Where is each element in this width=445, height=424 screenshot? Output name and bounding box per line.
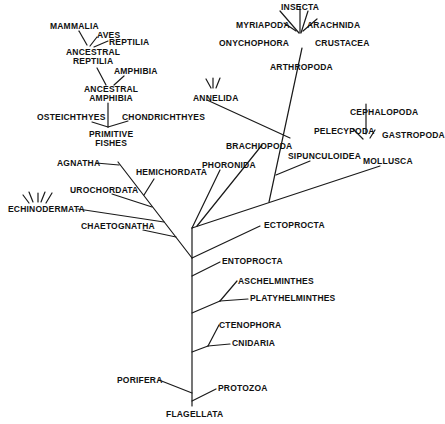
branch-phoronida [192, 170, 220, 228]
branch-worms [192, 301, 220, 313]
label-brachiopoda: BRACHIOPODA [226, 142, 292, 151]
label-arthropoda: ARTHROPODA [270, 63, 333, 72]
label-pelecypoda: PELECYPODA [314, 127, 375, 136]
label-porifera: PORIFERA [117, 376, 163, 385]
label-hemichordata: HEMICHORDATA [136, 168, 207, 177]
label-platyhelminthes: PLATYHELMINTHES [250, 294, 335, 303]
label-flagellata: FLAGELLATA [166, 410, 223, 419]
branch-annelida [207, 100, 290, 138]
branch-amphibia-stem [97, 68, 106, 85]
label-entoprocta: ENTOPROCTA [222, 257, 283, 266]
label-cnidaria: CNIDARIA [232, 339, 275, 348]
branch-brachiopoda [197, 145, 262, 226]
branch-entoprocta [192, 262, 220, 276]
label-cephalopoda: CEPHALOPODA [350, 108, 418, 117]
label-sipunculoidea: SIPUNCULOIDEA [288, 152, 361, 161]
label-chaetognatha: CHAETOGNATHA [81, 222, 155, 231]
label-echinodermata: ECHINODERMATA [8, 205, 85, 214]
label-aschelminthes: ASCHELMINTHES [238, 277, 314, 286]
branch-platyhelminthes [220, 299, 248, 301]
label-insecta: INSECTA [281, 3, 319, 12]
label-ancestral-reptilia: ANCESTRAL REPTILIA [66, 48, 120, 66]
branch-mammalia [79, 31, 87, 45]
branch-osteichthyes [92, 122, 108, 127]
label-urochordata: UROCHORDATA [70, 186, 138, 195]
label-agnatha: AGNATHA [57, 159, 100, 168]
branch-hemichordata [144, 179, 154, 195]
label-chondrichthyes: CHONDRICHTHYES [122, 113, 205, 122]
label-protozoa: PROTOZOA [218, 384, 268, 393]
label-myriapoda: MYRIAPODA [236, 21, 290, 30]
branch-sipunculoidea [276, 161, 310, 175]
branch-radiata [192, 346, 208, 352]
label-gastropoda: GASTROPODA [382, 131, 445, 140]
label-crustacea: CRUSTACEA [315, 39, 370, 48]
label-ectoprocta: ECTOPROCTA [264, 221, 325, 230]
label-mammalia: MAMMALIA [50, 22, 99, 31]
label-osteichthyes: OSTEICHTHYES [37, 113, 106, 122]
label-ctenophora: CTENOPHORA [219, 321, 281, 330]
branch-aves [90, 37, 97, 46]
label-amphibia: AMPHIBIA [114, 67, 158, 76]
branch-protozoa [192, 389, 216, 401]
branch-cnidaria [208, 344, 230, 346]
label-phoronida: PHORONIDA [202, 161, 256, 170]
branch-ectoprocta [192, 226, 260, 258]
label-mollusca: MOLLUSCA [363, 157, 413, 166]
branch-aschelminthes [220, 281, 237, 301]
label-primitive-fishes: PRIMITIVE FISHES [89, 130, 133, 148]
label-onychophora: ONYCHOPHORA [219, 39, 289, 48]
label-annelida: ANNELIDA [193, 94, 239, 103]
label-ancestral-amphibia: ANCESTRAL AMPHIBIA [84, 85, 138, 103]
branch-porifera [159, 380, 192, 393]
label-reptilia: REPTILIA [109, 38, 149, 47]
branch-ctenophora [208, 325, 219, 346]
branch-urochordata [112, 194, 152, 207]
label-arachnida: ARACHNIDA [307, 21, 360, 30]
